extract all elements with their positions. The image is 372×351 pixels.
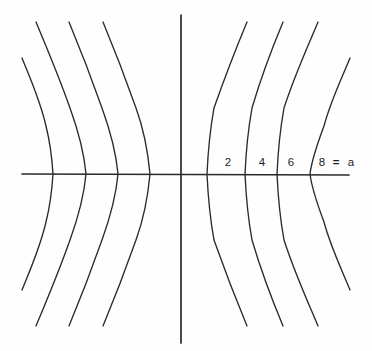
contour-label-2: 2: [225, 156, 232, 168]
contour-figure: 2 4 6 8 = a: [0, 0, 372, 351]
plot-canvas: 2 4 6 8 = a: [0, 0, 372, 351]
contour-label-6: 6: [288, 156, 295, 168]
horizontal-axis: [22, 174, 349, 175]
contour-curve-a8-right: [310, 58, 350, 290]
contour-label-4: 4: [259, 156, 266, 168]
parameter-label-a: a: [348, 156, 355, 168]
equals-sign: =: [333, 156, 340, 168]
contour-label-8: 8: [319, 156, 326, 168]
